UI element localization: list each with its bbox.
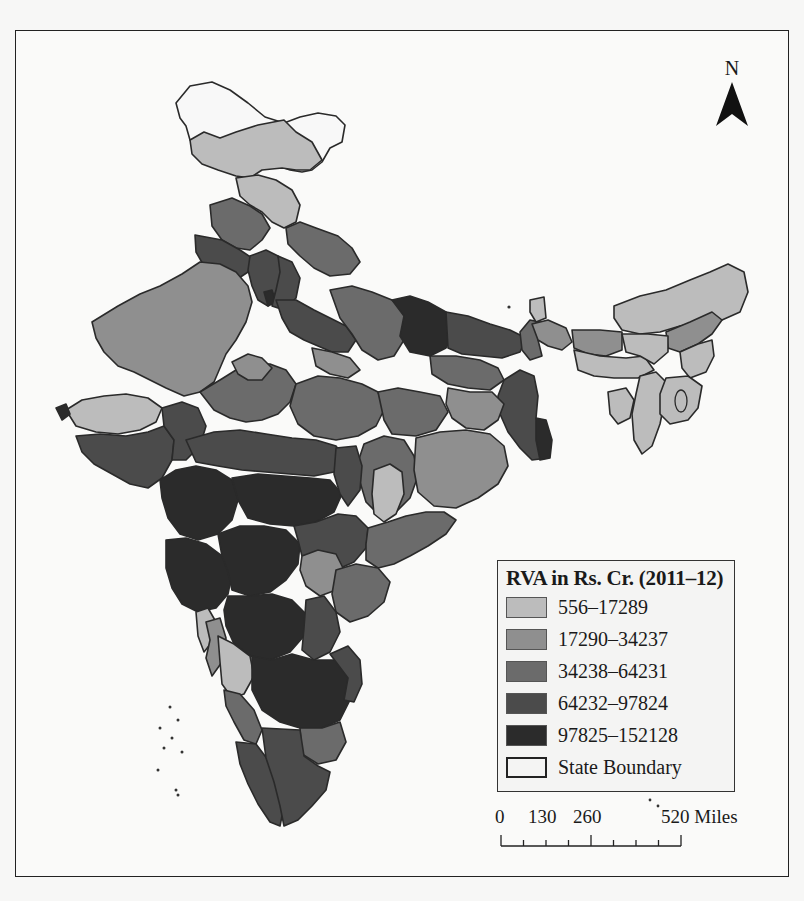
region-sikkim [530,297,546,322]
legend-label: 97825–152128 [558,724,678,747]
lakshadweep-islands [157,706,184,797]
region-jharkhand [446,388,504,430]
legend-item: 34238–64231 [506,655,726,687]
legend-item: 556–17289 [506,591,726,623]
legend-swatch [506,693,547,714]
legend-label: 64232–97824 [558,692,668,715]
region-gujarat-kutch [66,394,162,434]
legend-label: 17290–34237 [558,628,668,651]
region-wb-kolkata [536,418,552,460]
legend-swatch-boundary [506,757,547,778]
region-tripura [608,388,634,424]
region-up-east [392,296,454,356]
legend-item: 97825–152128 [506,719,726,751]
north-arrow: N [712,58,752,134]
legend-item: State Boundary [506,751,726,783]
region-gujarat-west [56,404,70,420]
region-up-light [312,348,360,378]
legend-label: 556–17289 [558,596,648,619]
region-arunachal [614,264,748,334]
region-mp-east [378,388,448,436]
legend-swatch [506,597,547,618]
region-mp-central [290,376,384,440]
legend-swatch [506,661,547,682]
region-karnataka-central [218,526,300,596]
region-manipur [660,376,702,424]
scale-bar-ticks [493,806,693,852]
region-bihar [446,312,526,358]
region-maharashtra-west [160,466,238,540]
legend-label: 34238–64231 [558,660,668,683]
region-tn-north [252,654,350,728]
region-odisha-light [372,464,404,522]
region-ap-north [366,512,456,568]
map-legend: RVA in Rs. Cr. (2011–12) 556–17289 17290… [497,560,735,792]
north-arrow-icon [712,78,752,130]
legend-swatch [506,629,547,650]
north-label: N [712,58,752,78]
legend-title: RVA in Rs. Cr. (2011–12) [506,565,726,591]
region-gujarat [76,426,174,488]
region-bihar-s [430,356,504,390]
legend-item: 17290–34237 [506,623,726,655]
region-ap-south [332,564,390,622]
legend-label: State Boundary [558,756,682,779]
legend-swatch [506,725,547,746]
scale-bar: 0 130 260 520 Miles [493,806,753,852]
region-uk [286,222,360,276]
region-odisha [414,430,508,508]
legend-item: 64232–97824 [506,687,726,719]
